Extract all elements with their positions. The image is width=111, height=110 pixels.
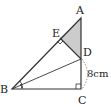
label-measure-8cm: 8cm [87,68,109,79]
label-a: A [75,4,85,17]
label-e: E [52,27,60,40]
triangle-abc [12,18,81,89]
label-b: B [0,83,8,96]
right-angle-mark-c [76,84,81,89]
label-d: D [83,46,92,59]
geometry-diagram: A E D C B 8cm [0,0,111,110]
label-c: C [78,94,86,107]
angle-mark-dot-1 [20,84,22,86]
angle-mark-dot-2 [21,86,23,88]
shaded-triangle-aed [60,18,81,59]
